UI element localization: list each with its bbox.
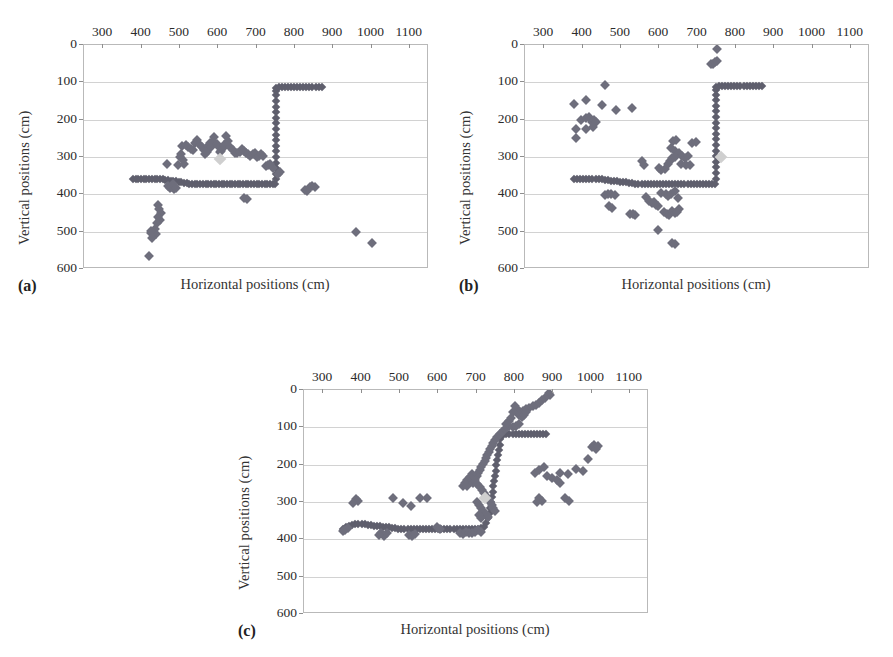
ytick-label-100: 100 xyxy=(267,418,297,434)
ytick-label-400: 400 xyxy=(267,530,297,546)
xtick-label-1100: 1100 xyxy=(616,369,643,385)
xtick-label-900: 900 xyxy=(542,369,562,385)
ytick-0 xyxy=(299,389,303,390)
xtick-700 xyxy=(476,389,477,393)
xtick-label-600: 600 xyxy=(427,369,447,385)
ytick-label-500: 500 xyxy=(267,568,297,584)
gridline-y-500 xyxy=(304,577,647,578)
xtick-1100 xyxy=(629,389,630,393)
ytick-label-200: 200 xyxy=(267,456,297,472)
ytick-label-600: 600 xyxy=(267,605,297,621)
ytick-label-0: 0 xyxy=(267,381,297,397)
xtick-600 xyxy=(437,389,438,393)
xtick-1000 xyxy=(591,389,592,393)
data-point-marker xyxy=(388,493,398,503)
xtick-label-300: 300 xyxy=(312,369,332,385)
ytick-300 xyxy=(299,501,303,502)
ytick-100 xyxy=(299,426,303,427)
gridline-y-400 xyxy=(304,539,647,540)
data-point-marker xyxy=(563,469,573,479)
ytick-400 xyxy=(299,538,303,539)
xtick-label-1000: 1000 xyxy=(577,369,604,385)
ytick-200 xyxy=(299,464,303,465)
xtick-400 xyxy=(361,389,362,393)
data-point-marker xyxy=(583,454,593,464)
xtick-900 xyxy=(552,389,553,393)
panel-tag-c: (c) xyxy=(238,622,256,640)
plot-area-c xyxy=(303,389,648,613)
ytick-label-300: 300 xyxy=(267,493,297,509)
data-point-marker xyxy=(555,478,565,488)
panel-c: 3004005006007008009001000110001002003004… xyxy=(0,0,893,657)
ytick-600 xyxy=(299,613,303,614)
x-axis-label-c: Horizontal positions (cm) xyxy=(320,621,630,638)
data-point-marker xyxy=(422,493,432,503)
ytick-500 xyxy=(299,576,303,577)
xtick-label-500: 500 xyxy=(389,369,409,385)
gridline-y-100 xyxy=(304,427,647,428)
xtick-label-400: 400 xyxy=(350,369,370,385)
xtick-800 xyxy=(514,389,515,393)
xtick-label-700: 700 xyxy=(465,369,485,385)
xtick-500 xyxy=(399,389,400,393)
xtick-300 xyxy=(322,389,323,393)
xtick-label-800: 800 xyxy=(504,369,524,385)
y-axis-label-c: Vertical positions (cm) xyxy=(236,456,253,590)
